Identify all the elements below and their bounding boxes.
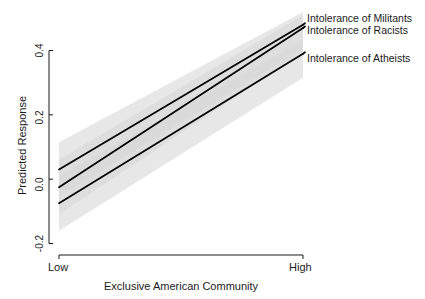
plot-canvas xyxy=(0,0,425,299)
y-tick-label-02: 0.2 xyxy=(34,106,45,130)
x-tick-label-high: High xyxy=(289,261,312,273)
y-tick-label-neg02: -0.2 xyxy=(34,231,45,257)
series-label-atheists: Intolerance of Atheists xyxy=(307,52,410,64)
legend-stub-atheists xyxy=(303,52,305,54)
x-tick-label-low: Low xyxy=(48,261,68,273)
y-axis-title-text: Predicted Response xyxy=(16,96,28,195)
x-axis-title: Exclusive American Community xyxy=(104,280,258,292)
legend-stub-racists xyxy=(303,26,305,28)
series-label-racists: Intolerance of Racists xyxy=(307,24,408,36)
chart-figure: Predicted Response -0.2 0.0 0.2 0.4 Low … xyxy=(0,0,425,299)
y-tick-label-00: 0.0 xyxy=(34,173,45,197)
x-axis-line xyxy=(59,255,303,259)
confidence-bands xyxy=(59,12,303,231)
y-tick-label-04: 0.4 xyxy=(34,39,45,63)
legend-stub-militants xyxy=(303,23,305,25)
line-racists xyxy=(59,28,303,187)
legend-line-stubs xyxy=(303,23,305,53)
y-axis-line xyxy=(49,51,53,244)
series-label-militants: Intolerance of Militants xyxy=(307,12,412,24)
